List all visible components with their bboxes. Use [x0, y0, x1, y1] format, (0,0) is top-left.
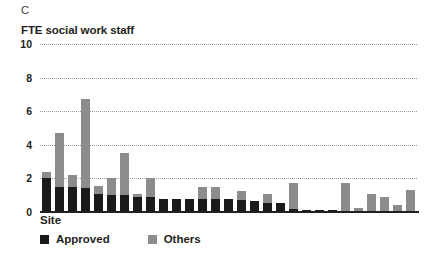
bar-segment-others	[198, 187, 208, 199]
bar-group	[159, 199, 169, 212]
bar-segment-approved	[224, 199, 234, 212]
plot-area	[40, 44, 417, 212]
bar-group	[341, 183, 351, 212]
bar-segment-approved	[107, 195, 117, 212]
bar-group	[55, 133, 65, 212]
bar-segment-approved	[159, 199, 169, 212]
bar-segment-approved	[81, 188, 91, 212]
panel-letter: C	[21, 4, 29, 17]
bar-group	[172, 199, 182, 212]
bar-segment-others	[94, 186, 104, 194]
bar-group	[224, 199, 234, 212]
bar-group	[81, 99, 91, 212]
bar-segment-others	[68, 175, 78, 187]
bar-group	[198, 187, 208, 212]
bar-segment-others	[107, 178, 117, 195]
bar-segment-others	[367, 194, 377, 212]
x-axis-line	[40, 211, 419, 213]
legend-label-approved: Approved	[56, 233, 110, 246]
bar-group	[289, 183, 299, 212]
bar-segment-others	[42, 172, 52, 179]
bar-segment-approved	[172, 199, 182, 212]
bar-segment-others	[211, 187, 221, 199]
bar-segment-approved	[55, 187, 65, 212]
bar-group	[237, 191, 247, 212]
figure-panel-c: C FTE social work staff 1086420 Site App…	[0, 0, 439, 260]
legend-label-others: Others	[164, 233, 201, 246]
bar-segment-approved	[133, 197, 143, 212]
bar-group	[211, 187, 221, 212]
bar-segment-approved	[120, 195, 130, 212]
bar-segment-others	[237, 191, 247, 200]
legend-swatch-others	[148, 235, 157, 244]
bar-segment-others	[341, 183, 351, 212]
y-axis-tick-labels: 1086420	[0, 44, 38, 212]
bar-segment-approved	[211, 199, 221, 212]
bar-group	[68, 175, 78, 212]
x-axis-label: Site	[40, 214, 61, 227]
legend-item-others: Others	[148, 233, 201, 246]
bar-group	[367, 194, 377, 212]
bar-segment-others	[263, 194, 273, 202]
bar-segment-approved	[198, 199, 208, 212]
y-axis-tick-6: 6	[26, 106, 32, 117]
bar-group	[263, 194, 273, 212]
y-axis-tick-4: 4	[26, 139, 32, 150]
y-axis-tick-10: 10	[20, 39, 32, 50]
bar-group	[406, 190, 416, 212]
bar-group	[120, 153, 130, 212]
bar-series-container	[40, 44, 417, 212]
bar-group	[133, 194, 143, 212]
bar-segment-approved	[94, 194, 104, 212]
y-axis-tick-8: 8	[26, 72, 32, 83]
bar-group	[185, 199, 195, 212]
legend-swatch-approved	[40, 235, 49, 244]
bar-group	[42, 172, 52, 212]
bar-segment-approved	[68, 187, 78, 212]
bar-segment-others	[406, 190, 416, 212]
bar-segment-others	[120, 153, 130, 195]
chart-title: FTE social work staff	[21, 24, 134, 37]
chart-legend: ApprovedOthers	[40, 233, 201, 246]
bar-group	[94, 186, 104, 212]
bar-segment-approved	[185, 199, 195, 212]
bar-segment-others	[146, 178, 156, 196]
bar-group	[107, 178, 117, 212]
bar-segment-others	[55, 133, 65, 187]
y-axis-tick-0: 0	[26, 207, 32, 218]
bar-segment-others	[380, 197, 390, 212]
legend-item-approved: Approved	[40, 233, 110, 246]
bar-group	[146, 178, 156, 212]
bar-segment-approved	[146, 197, 156, 212]
bar-segment-approved	[42, 178, 52, 212]
bar-segment-others	[289, 183, 299, 208]
bar-group	[380, 197, 390, 212]
bar-segment-others	[81, 99, 91, 188]
y-axis-tick-2: 2	[26, 173, 32, 184]
